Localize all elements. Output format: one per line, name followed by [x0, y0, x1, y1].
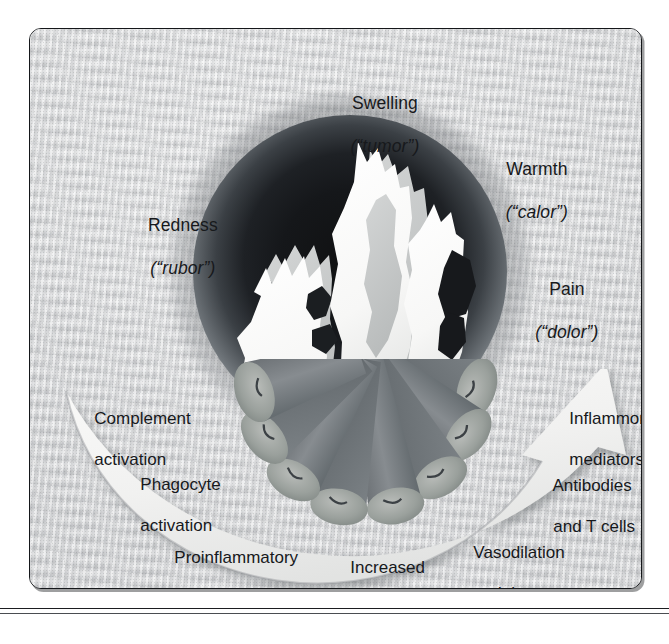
- label-pain-name: Pain: [549, 279, 584, 299]
- label-swelling-latin: (“tumor”): [350, 136, 419, 156]
- label-pain-latin: (“dolor”): [535, 322, 598, 342]
- page-rule-bottom: [0, 613, 669, 614]
- figure-frame: Swelling (“tumor”) Warmth (“calor”) Redn…: [29, 28, 642, 589]
- label-mediators-line1: Inflammory: [569, 409, 642, 428]
- figure-canvas: Swelling (“tumor”) Warmth (“calor”) Redn…: [0, 0, 669, 644]
- label-complement-line1: Complement: [94, 409, 190, 428]
- label-warmth-name: Warmth: [506, 159, 567, 179]
- label-cytokines-line1: Proinflammatory: [174, 548, 298, 567]
- page-rule-top: [0, 608, 669, 609]
- label-increased-blood-flow: Increased blood flow: [322, 538, 427, 589]
- label-mediators-line2: mediators: [569, 450, 642, 469]
- label-inflammatory-mediators: Inflammory mediators: [541, 389, 642, 491]
- label-pain: Pain (“dolor”): [488, 257, 616, 365]
- label-redness-latin: (“rubor”): [150, 258, 215, 278]
- label-vaso-line2: and tissue: [473, 584, 551, 589]
- label-proinflammatory-cytokines: Proinflammatory cytokines: [146, 528, 298, 589]
- label-warmth: Warmth (“calor”): [452, 137, 592, 245]
- label-redness-name: Redness: [148, 215, 218, 235]
- label-warmth-latin: (“calor”): [506, 202, 568, 222]
- label-phagocyte-line1: Phagocyte: [140, 475, 220, 494]
- label-antibodies-line2: and T cells: [553, 517, 635, 536]
- label-swelling: Swelling (“tumor”): [296, 71, 444, 179]
- label-redness: Redness (“rubor”): [98, 193, 238, 301]
- label-swelling-name: Swelling: [352, 93, 418, 113]
- label-bloodflow-line1: Increased: [350, 558, 425, 577]
